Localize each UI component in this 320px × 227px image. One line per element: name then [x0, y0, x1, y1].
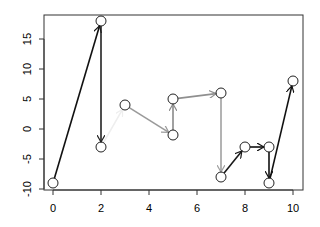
- data-point-marker: [264, 178, 274, 188]
- arrow-segment: [270, 86, 292, 178]
- y-tick-label: 15: [21, 33, 33, 45]
- data-point-marker: [288, 76, 298, 86]
- x-tick-label: 2: [98, 202, 104, 214]
- arrow-scatter-chart: 0246810 -10-5051015: [0, 0, 320, 227]
- y-tick-label: 0: [21, 126, 33, 132]
- arrow-segment: [54, 26, 99, 178]
- data-points: [48, 16, 298, 188]
- data-point-marker: [168, 94, 178, 104]
- y-tick-label: 10: [21, 63, 33, 75]
- x-tick-label: 8: [242, 202, 248, 214]
- y-tick-label: -5: [21, 154, 33, 164]
- arrow-segment: [129, 108, 169, 133]
- y-axis: -10-5051015: [21, 33, 44, 197]
- data-point-marker: [240, 142, 250, 152]
- data-point-marker: [48, 178, 58, 188]
- data-point-marker: [216, 172, 226, 182]
- data-point-marker: [264, 142, 274, 152]
- x-tick-label: 10: [287, 202, 299, 214]
- plot-box: [44, 15, 303, 190]
- data-point-marker: [168, 130, 178, 140]
- arrow-segment: [178, 94, 216, 99]
- x-axis: 0246810: [50, 190, 299, 214]
- arrow-segment: [224, 151, 242, 173]
- arrow-segment: [103, 109, 122, 142]
- data-point-marker: [96, 16, 106, 26]
- x-tick-label: 6: [194, 202, 200, 214]
- data-point-marker: [216, 88, 226, 98]
- x-tick-label: 0: [50, 202, 56, 214]
- y-tick-label: 5: [21, 96, 33, 102]
- x-tick-label: 4: [146, 202, 152, 214]
- data-point-marker: [96, 142, 106, 152]
- arrow-segments: [54, 26, 291, 178]
- y-tick-label: -10: [21, 181, 33, 197]
- data-point-marker: [120, 100, 130, 110]
